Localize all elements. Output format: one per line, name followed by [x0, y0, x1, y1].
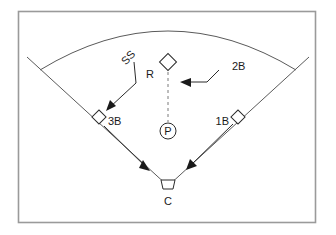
pitcher-label: P — [164, 125, 171, 137]
catcher-label: C — [164, 195, 172, 207]
first-to-home-arrow-line — [188, 124, 233, 168]
runner-label: R — [146, 68, 154, 80]
third-base-label: 3B — [108, 115, 121, 127]
third-to-home-arrow-line — [104, 126, 148, 169]
shortstop-leader-arrowhead — [106, 100, 116, 111]
first-base-label: 1B — [216, 115, 229, 127]
diagram-frame — [19, 12, 316, 223]
second-base-diamond — [160, 54, 177, 71]
shortstop-leader-line — [109, 62, 136, 108]
secondbase-leader-arrowhead — [180, 78, 191, 87]
diagram-page: R P C 3B 1B 2B SS — [0, 0, 336, 235]
first-base-diamond — [231, 110, 245, 124]
baseball-field-diagram: R P C 3B 1B 2B SS — [0, 0, 336, 235]
third-base-diamond — [92, 110, 106, 124]
home-plate-shape — [161, 180, 175, 189]
second-baseman-label: 2B — [232, 60, 245, 72]
